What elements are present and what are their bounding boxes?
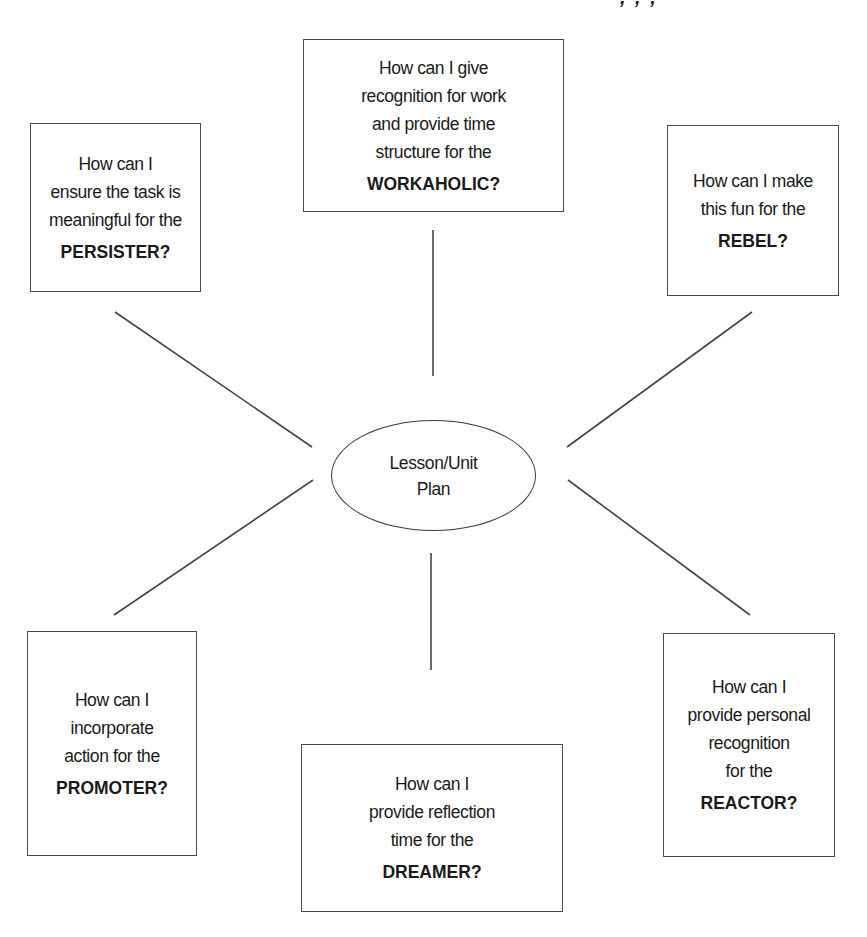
center-node-label: Lesson/Unit Plan bbox=[389, 450, 477, 502]
box-dreamer: How can I provide reflection time for th… bbox=[301, 744, 563, 912]
box-reactor: How can I provide personal recognition f… bbox=[663, 633, 835, 857]
box-persister-type: PERSISTER? bbox=[61, 238, 171, 266]
box-workaholic: How can I give recognition for work and … bbox=[303, 39, 564, 212]
center-node-lesson-plan: Lesson/Unit Plan bbox=[331, 420, 536, 531]
box-persister: How can I ensure the task is meaningful … bbox=[30, 123, 201, 292]
connector-persister bbox=[115, 312, 312, 447]
box-rebel: How can I make this fun for the REBEL? bbox=[667, 125, 839, 296]
connector-rebel bbox=[567, 312, 752, 447]
box-dreamer-question: How can I provide reflection time for th… bbox=[369, 770, 495, 854]
box-promoter-type: PROMOTER? bbox=[56, 774, 168, 802]
box-reactor-type: REACTOR? bbox=[701, 789, 798, 817]
box-reactor-question: How can I provide personal recognition f… bbox=[688, 673, 811, 785]
box-promoter-question: How can I incorporate action for the bbox=[64, 686, 160, 770]
box-dreamer-type: DREAMER? bbox=[382, 858, 481, 886]
connector-reactor bbox=[568, 480, 750, 615]
box-rebel-type: REBEL? bbox=[718, 227, 788, 255]
box-persister-question: How can I ensure the task is meaningful … bbox=[49, 150, 182, 234]
box-promoter: How can I incorporate action for the PRO… bbox=[27, 631, 197, 856]
box-rebel-question: How can I make this fun for the bbox=[693, 167, 813, 223]
box-workaholic-question: How can I give recognition for work and … bbox=[361, 54, 506, 166]
box-workaholic-type: WORKAHOLIC? bbox=[367, 170, 500, 198]
connector-promoter bbox=[114, 480, 313, 615]
